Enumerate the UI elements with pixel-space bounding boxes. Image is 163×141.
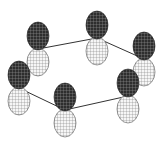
bottom-lobe <box>27 48 49 76</box>
p-orbital-bottom-right <box>117 69 139 123</box>
p-orbital-left <box>8 61 30 115</box>
top-lobe <box>54 83 76 111</box>
bottom-lobe <box>117 95 139 123</box>
bottom-lobe <box>86 37 108 65</box>
bottom-lobe <box>54 109 76 137</box>
top-lobe <box>27 22 49 50</box>
p-orbital-bottom-center <box>54 83 76 137</box>
p-orbital-top-left <box>27 22 49 76</box>
p-orbital-top-center <box>86 11 108 65</box>
bottom-lobe <box>8 87 30 115</box>
top-lobe <box>86 11 108 39</box>
top-lobe <box>133 32 155 60</box>
top-lobe <box>117 69 139 97</box>
benzene-orbital-diagram <box>0 0 163 141</box>
top-lobe <box>8 61 30 89</box>
